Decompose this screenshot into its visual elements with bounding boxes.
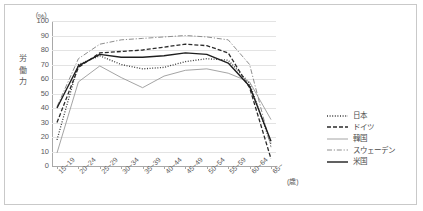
x-tick-label: 15~19 xyxy=(57,170,62,175)
y-tick-label: 70 xyxy=(29,61,49,69)
legend-label: 韓国 xyxy=(353,134,367,143)
legend-label: 日本 xyxy=(353,111,367,120)
y-tick-label: 0 xyxy=(29,162,49,170)
x-axis-tick-labels: 15~1920~2425~2930~3435~3940~4445~4950~54… xyxy=(52,166,276,210)
y-tick-label: 100 xyxy=(29,17,49,25)
legend-item[interactable]: スウェーデン xyxy=(327,145,419,157)
x-axis-unit-label: (歳) xyxy=(287,176,299,186)
legend-label: ドイツ xyxy=(353,123,374,132)
x-tick-label: 40~44 xyxy=(164,170,169,175)
series-line-韓国 xyxy=(57,66,271,153)
series-line-米国 xyxy=(57,53,271,141)
y-axis-tick-labels: 1009080706050403020100 xyxy=(27,21,49,166)
series-lines xyxy=(52,21,276,167)
y-tick-label: 10 xyxy=(29,148,49,156)
legend-item[interactable]: 日本 xyxy=(327,110,419,122)
plot-area xyxy=(52,21,276,166)
y-tick-label: 50 xyxy=(29,90,49,98)
y-tick-label: 30 xyxy=(29,119,49,127)
x-tick-label: 65~ xyxy=(271,170,276,175)
x-tick-label: 55~59 xyxy=(228,170,233,175)
series-line-ドイツ xyxy=(57,44,271,159)
y-tick-label: 60 xyxy=(29,75,49,83)
x-tick-label: 50~54 xyxy=(207,170,212,175)
legend-label: 米国 xyxy=(353,157,367,166)
legend-item[interactable]: 米国 xyxy=(327,156,419,168)
x-tick-label: 20~24 xyxy=(78,170,83,175)
y-tick-label: 40 xyxy=(29,104,49,112)
y-tick-label: 20 xyxy=(29,133,49,141)
y-tick-label: 90 xyxy=(29,32,49,40)
x-tick-label: 30~34 xyxy=(121,170,126,175)
series-line-スウェーデン xyxy=(57,36,271,148)
labor-force-participation-chart: （%） 労働力 (歳) 1009080706050403020100 15~19… xyxy=(0,0,423,211)
chart-legend: 日本ドイツ韓国スウェーデン米国 xyxy=(327,110,419,168)
x-tick-label: 25~29 xyxy=(100,170,105,175)
x-tick-label: 45~49 xyxy=(185,170,190,175)
legend-item[interactable]: ドイツ xyxy=(327,122,419,134)
legend-label: スウェーデン xyxy=(353,146,395,155)
y-tick-label: 80 xyxy=(29,46,49,54)
x-tick-label: 35~39 xyxy=(143,170,148,175)
legend-item[interactable]: 韓国 xyxy=(327,133,419,145)
x-tick-label: 60~64 xyxy=(250,170,255,175)
